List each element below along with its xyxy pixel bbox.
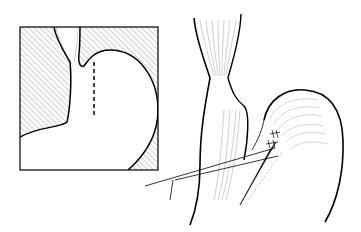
instrument-line-2 bbox=[175, 156, 278, 180]
esophagus-outline bbox=[190, 18, 210, 225]
instrument-line-1 bbox=[145, 148, 275, 186]
main-panel bbox=[145, 14, 343, 225]
surgical-illustration bbox=[0, 0, 361, 232]
sutures bbox=[266, 130, 280, 148]
inset-panel bbox=[20, 27, 158, 170]
